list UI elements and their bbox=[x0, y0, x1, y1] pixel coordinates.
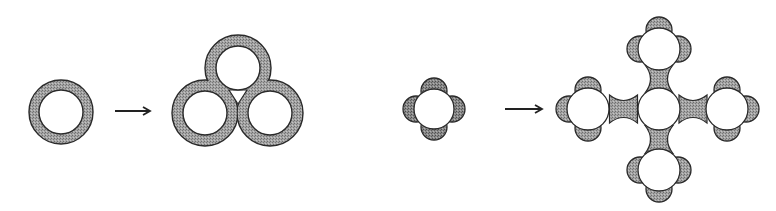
single-ring bbox=[29, 80, 93, 144]
three-fused-rings bbox=[172, 35, 303, 146]
atom-with-four-lobes bbox=[403, 78, 465, 140]
cross-of-five-atoms bbox=[556, 17, 759, 202]
diagram-canvas bbox=[0, 0, 776, 211]
